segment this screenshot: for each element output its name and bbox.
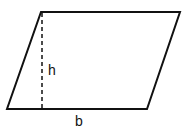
height-label: h (48, 62, 56, 78)
parallelogram-shape (7, 12, 180, 109)
parallelogram-diagram: h b (0, 0, 183, 128)
base-label: b (75, 113, 83, 128)
